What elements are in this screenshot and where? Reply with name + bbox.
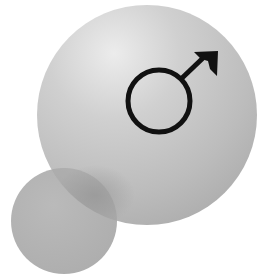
illustration-canvas (0, 0, 270, 276)
